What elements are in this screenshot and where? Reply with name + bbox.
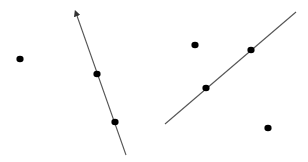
point-on-line [247,47,254,53]
point-on-line [111,119,118,125]
point-off-line [264,125,271,131]
point-on-line [202,85,209,91]
point-on-line [93,71,100,77]
figures-layer [16,12,296,155]
left-figure [16,13,126,155]
diagram-canvas [0,0,308,162]
point-off-line [191,42,198,48]
line [165,12,296,124]
right-figure [165,12,296,131]
point-off-line [16,56,23,62]
line [76,13,126,155]
